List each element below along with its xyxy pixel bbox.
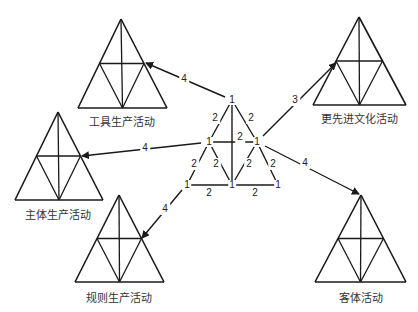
- network-node-bot-mid: 1: [228, 180, 236, 190]
- network-node-mid-left: 1: [205, 137, 213, 147]
- edge-weight-label: 2: [235, 131, 245, 143]
- triangle-culture: [313, 17, 406, 105]
- triangle-inner-edge: [361, 239, 384, 283]
- triangle-inner-edge: [336, 61, 360, 105]
- triangle-label-object: 客体活动: [339, 289, 383, 305]
- network-arrows: [82, 63, 359, 238]
- triangle-label-culture: 更先进文化活动: [321, 110, 398, 126]
- edge-weight-label: 2: [211, 158, 221, 170]
- arrow-weight-label: 4: [160, 203, 170, 215]
- triangle-inner-edge: [59, 156, 81, 200]
- triangle-inner-edge: [37, 156, 60, 200]
- triangle-inner-edge: [123, 64, 145, 109]
- triangle-inner-edge: [97, 239, 120, 283]
- edge-weight-label: 2: [210, 112, 220, 124]
- triangle-label-rule: 规则生产活动: [86, 289, 152, 305]
- network-node-bot-left: 1: [183, 180, 191, 190]
- edge-weight-label: 2: [189, 158, 199, 170]
- edge-weight-label: 2: [246, 112, 256, 124]
- arrow-weight-label: 4: [140, 142, 150, 154]
- triangle-tool: [78, 19, 167, 108]
- arrow-weight-label: 4: [179, 73, 189, 85]
- edge-weight-label: 2: [204, 187, 214, 199]
- triangle-inner-edge: [120, 239, 142, 283]
- edge-weight-label: 2: [250, 187, 260, 199]
- diagram-canvas: 工具生产活动更先进文化活动主体生产活动规则生产活动客体活动22222222244…: [0, 0, 418, 312]
- arrow-weight-label: 3: [290, 94, 300, 106]
- triangle-inner-edge: [338, 239, 361, 283]
- network-node-top: 1: [228, 95, 236, 105]
- triangle-label-subject: 主体生产活动: [25, 206, 91, 222]
- triangle-label-tool: 工具生产活动: [89, 113, 155, 129]
- triangle-inner-edge: [100, 64, 123, 109]
- diagram-lines: [0, 0, 418, 312]
- edge-weight-label: 2: [244, 158, 254, 170]
- network-node-bot-right: 1: [274, 180, 282, 190]
- edge-weight-label: 2: [268, 158, 278, 170]
- arrow-weight-label: 4: [300, 157, 310, 169]
- activity-triangles: [15, 17, 406, 282]
- triangle-object: [315, 195, 406, 282]
- network-node-mid-right: 1: [253, 137, 261, 147]
- triangle-inner-edge: [360, 61, 383, 105]
